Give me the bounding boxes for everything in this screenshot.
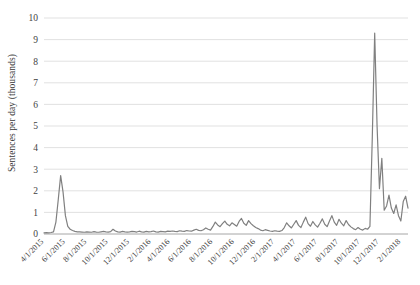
y-tick-label: 7 (33, 78, 38, 88)
y-tick-label: 8 (33, 57, 38, 67)
y-tick-label: 1 (33, 208, 38, 218)
y-axis-label-wrap: Sentences per day (thousands) (0, 0, 18, 240)
line-chart-svg: 012345678910 4/1/20156/1/20158/1/201510/… (0, 0, 420, 285)
y-axis-label: Sentences per day (thousands) (7, 13, 17, 213)
y-tick-label: 3 (33, 165, 38, 175)
chart-container: Sentences per day (thousands) 0123456789… (0, 0, 420, 285)
grid-lines (44, 18, 408, 234)
data-series-line (44, 33, 408, 233)
y-tick-label: 6 (33, 100, 38, 110)
x-tick-label: 2/1/2018 (375, 237, 402, 264)
y-tick-label: 4 (33, 143, 38, 153)
series-path (44, 33, 408, 233)
y-tick-label: 5 (33, 121, 38, 131)
y-tick-label: 2 (33, 186, 38, 196)
y-tick-label: 10 (29, 13, 39, 23)
x-axis-tick-labels: 4/1/20156/1/20158/1/201510/1/201512/1/20… (18, 237, 402, 267)
y-tick-label: 9 (33, 35, 38, 45)
y-axis-tick-labels: 012345678910 (29, 13, 39, 239)
